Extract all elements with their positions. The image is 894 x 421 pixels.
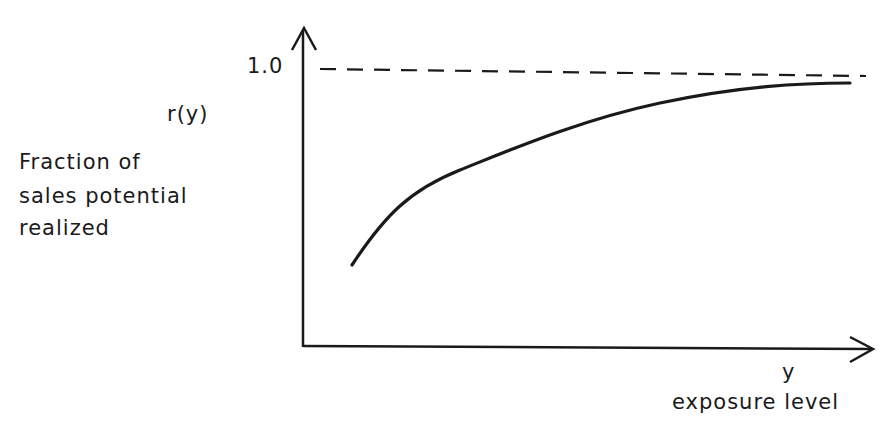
y-axis-desc-line1: Fraction of <box>19 150 141 174</box>
x-axis-desc: exposure level <box>672 390 839 414</box>
y-axis-desc-line2: sales potential <box>19 184 188 208</box>
y-axis-symbol: r(y) <box>167 102 208 126</box>
response-curve <box>352 83 850 265</box>
chart-canvas <box>0 0 894 421</box>
x-axis <box>303 346 872 349</box>
asymptote-line <box>320 69 866 76</box>
y-axis-desc-line3: realized <box>19 216 110 240</box>
y-tick-label: 1.0 <box>247 54 283 78</box>
x-axis-symbol: y <box>782 360 795 384</box>
